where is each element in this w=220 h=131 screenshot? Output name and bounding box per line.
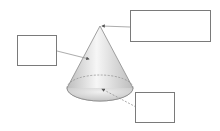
label-box-base[interactable] bbox=[135, 92, 175, 123]
cone-base-front-edge bbox=[67, 88, 133, 101]
label-box-lateral-surface[interactable] bbox=[17, 35, 57, 66]
cone-diagram bbox=[0, 0, 220, 131]
arrow-apex bbox=[102, 26, 130, 27]
label-box-apex[interactable] bbox=[130, 10, 211, 42]
